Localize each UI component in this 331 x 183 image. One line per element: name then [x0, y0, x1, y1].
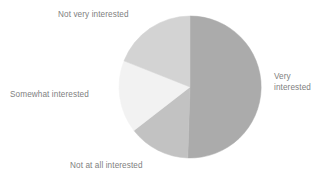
pie-label-not-at-all-interested: Not at all interested	[70, 161, 143, 172]
pie-label-not-very-interested: Not very interested	[58, 10, 129, 21]
pie-slices	[119, 16, 261, 158]
pie-slice-very-interested[interactable]	[188, 16, 261, 158]
pie-label-somewhat-interested: Somewhat interested	[10, 90, 89, 101]
pie-chart-figure: Not very interested Somewhat interested …	[0, 0, 331, 183]
pie-label-very-interested: Very interested	[274, 72, 311, 93]
